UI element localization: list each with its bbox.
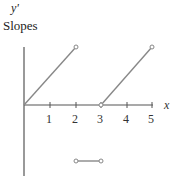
slope-segment-2 — [101, 47, 152, 105]
open-endpoint — [150, 45, 154, 49]
tick-label-1: 1 — [46, 112, 52, 126]
tick-label-5: 5 — [148, 112, 154, 126]
chart-plot: 1 2 3 4 5 x — [0, 0, 182, 186]
tick-label-2: 2 — [72, 112, 78, 126]
tick-label-4: 4 — [123, 112, 129, 126]
x-axis-label: x — [163, 98, 170, 112]
slope-segment-1 — [24, 47, 76, 105]
tick-label-3: 3 — [97, 112, 103, 126]
open-endpoint — [99, 103, 103, 107]
open-endpoint — [74, 159, 78, 163]
open-endpoint — [99, 159, 103, 163]
open-endpoint — [74, 45, 78, 49]
